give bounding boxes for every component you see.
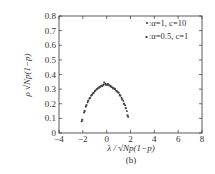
x-tick-label: −2 — [78, 134, 88, 144]
y-axis-label: ρ √Np(1−p) — [22, 53, 32, 97]
data-point-series-2 — [103, 82, 105, 84]
data-point-series-2 — [89, 97, 91, 99]
data-point-series-2 — [84, 110, 86, 112]
x-tick-label: 6 — [176, 134, 181, 144]
data-point-series-2 — [98, 87, 100, 89]
data-point-series-2 — [118, 92, 120, 94]
data-point-series-2 — [119, 95, 121, 97]
data-point-series-2 — [87, 100, 89, 102]
data-point-series-1 — [126, 110, 128, 112]
data-point-series-2 — [85, 104, 87, 106]
data-point-series-2 — [127, 114, 129, 116]
y-tick-label: 0.1 — [45, 113, 56, 123]
data-point-series-2 — [109, 84, 111, 86]
legend-label-series-1: :α=1, c=10 — [149, 18, 186, 28]
figure-caption: (b) — [126, 155, 137, 165]
data-point-series-2 — [100, 85, 102, 87]
y-tick-label: 0.5 — [45, 55, 57, 65]
legend-label-series-2: :α=0.5, c=1 — [149, 31, 188, 41]
data-point-series-2 — [91, 94, 93, 96]
data-point-series-2 — [94, 90, 96, 92]
x-tick-label: 8 — [200, 134, 205, 144]
legend-marker-series-2 — [146, 36, 148, 38]
y-tick-label: 0.4 — [45, 70, 57, 80]
y-tick-label: 0 — [52, 128, 57, 138]
data-point-series-2 — [125, 107, 127, 109]
legend-marker-series-1 — [146, 22, 148, 24]
data-point-series-2 — [112, 87, 114, 89]
y-tick-label: 0.3 — [45, 84, 57, 94]
data-point-series-2 — [110, 86, 112, 88]
data-points — [81, 82, 129, 123]
data-point-series-2 — [121, 98, 123, 100]
data-point-series-2 — [105, 84, 107, 86]
x-axis-label: λ / √Np(1−p) — [106, 143, 154, 153]
data-point-series-2 — [107, 83, 109, 85]
data-point-series-2 — [114, 88, 116, 90]
y-tick-label: 0.7 — [45, 26, 57, 36]
y-tick-label: 0.6 — [45, 40, 57, 50]
y-tick-label: 0.2 — [45, 99, 56, 109]
semicircle-scatter-chart: −4−202468 00.10.20.30.40.50.60.70.8 :α=1… — [0, 0, 215, 174]
data-point-series-2 — [81, 119, 83, 121]
data-point-series-2 — [96, 88, 98, 90]
data-point-series-2 — [93, 92, 95, 94]
data-point-series-2 — [123, 103, 125, 105]
legend: :α=1, c=10 :α=0.5, c=1 — [146, 18, 189, 41]
data-point-series-2 — [101, 84, 103, 86]
data-point-series-2 — [116, 90, 118, 92]
y-tick-label: 0.8 — [45, 11, 57, 21]
